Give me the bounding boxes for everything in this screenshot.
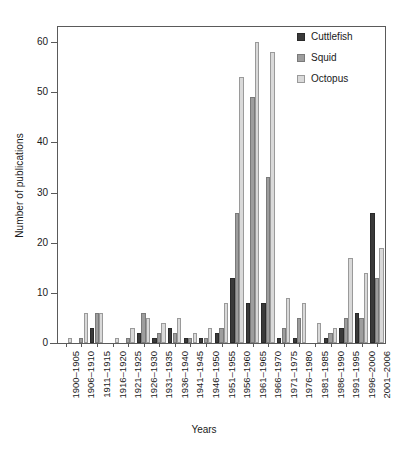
x-axis-tick <box>66 343 67 347</box>
legend-label: Octopus <box>311 73 348 84</box>
x-axis-tick <box>253 343 254 347</box>
y-tick-label: 10 <box>37 286 48 299</box>
x-axis-label: 2001–2006 <box>381 351 392 399</box>
bar-group <box>214 27 230 343</box>
x-axis-tick <box>206 343 207 347</box>
x-axis-tick <box>331 343 332 347</box>
legend-swatch-octopus-icon <box>297 75 305 83</box>
x-axis-tick <box>237 343 238 347</box>
legend-swatch-squid-icon <box>297 54 305 62</box>
y-tick-label: 40 <box>37 135 48 148</box>
x-axis-label: 1976–1980 <box>303 351 314 399</box>
x-axis-label: 1956–1960 <box>241 351 252 399</box>
x-axis-label: 1931–1935 <box>163 351 174 399</box>
x-axis-label: 1966–1970 <box>272 351 283 399</box>
bar-octopus <box>208 328 212 343</box>
x-axis-label: 1971–1975 <box>288 351 299 399</box>
legend: CuttlefishSquidOctopus <box>297 28 353 91</box>
bar-group <box>167 27 183 343</box>
bar-group <box>136 27 152 343</box>
bar-octopus <box>348 258 352 343</box>
legend-label: Squid <box>311 52 337 63</box>
y-tick-label: 60 <box>37 35 48 48</box>
y-tick-label: 0 <box>42 336 48 349</box>
x-axis-label: 1991–1995 <box>350 351 361 399</box>
bar-octopus <box>99 313 103 343</box>
x-axis-tick <box>190 343 191 347</box>
bar-octopus <box>239 77 243 343</box>
bar-octopus <box>177 318 181 343</box>
bar-octopus <box>255 42 259 343</box>
x-axis-label: 1911–1915 <box>101 351 112 398</box>
x-axis-tick <box>113 343 114 347</box>
x-axis-tick <box>268 343 269 347</box>
x-axis-tick <box>144 343 145 347</box>
bar-octopus <box>364 273 368 343</box>
x-axis-label: 1981–1985 <box>319 351 330 399</box>
bar-octopus <box>146 318 150 343</box>
x-axis-label: 1936–1940 <box>179 351 190 399</box>
bar-octopus <box>224 303 228 343</box>
bar-group <box>74 27 90 343</box>
x-axis-label: 1916–1920 <box>117 351 128 399</box>
x-axis-label: 1996–2000 <box>366 351 377 399</box>
x-axis-label: 1906–1910 <box>85 351 96 399</box>
x-axis-tick <box>346 343 347 347</box>
x-axis-label: 1961–1965 <box>257 351 268 399</box>
x-axis-tick <box>81 343 82 347</box>
bar-octopus <box>317 323 321 343</box>
bar-group <box>183 27 199 343</box>
x-axis-label: 1921–1925 <box>132 351 143 399</box>
legend-item-octopus: Octopus <box>297 70 353 87</box>
legend-item-cuttlefish: Cuttlefish <box>297 28 353 45</box>
bar-group <box>58 27 74 343</box>
y-axis-title: Number of publications <box>14 106 25 266</box>
bar-group <box>245 27 261 343</box>
x-axis-tick <box>315 343 316 347</box>
bar-group <box>151 27 167 343</box>
legend-item-squid: Squid <box>297 49 353 66</box>
x-axis-label: 1946–1950 <box>210 351 221 399</box>
publications-bar-chart: Number of publications 0102030405060 190… <box>0 0 408 450</box>
bar-octopus <box>270 52 274 343</box>
bar-octopus <box>193 333 197 343</box>
x-axis-label: 1986–1990 <box>335 351 346 399</box>
x-axis-tick <box>284 343 285 347</box>
x-axis-label: 1900–1905 <box>70 351 81 399</box>
x-axis-tick <box>299 343 300 347</box>
bar-group <box>260 27 276 343</box>
bar-octopus <box>130 328 134 343</box>
x-axis-tick <box>362 343 363 347</box>
bar-octopus <box>84 313 88 343</box>
legend-swatch-cuttlefish-icon <box>297 33 305 41</box>
bar-group <box>89 27 105 343</box>
bar-octopus <box>161 323 165 343</box>
bar-group <box>276 27 292 343</box>
y-tick-label: 20 <box>37 236 48 249</box>
bar-octopus <box>379 248 383 343</box>
x-axis-label: 1951–1955 <box>226 351 237 399</box>
x-axis-tick <box>175 343 176 347</box>
x-axis-tick <box>222 343 223 347</box>
x-axis-tick <box>377 343 378 347</box>
x-axis-label: 1941–1945 <box>194 351 205 399</box>
bar-group <box>229 27 245 343</box>
y-tick-label: 30 <box>37 186 48 199</box>
bar-octopus <box>302 303 306 343</box>
x-axis-label: 1926–1930 <box>148 351 159 399</box>
bar-octopus <box>286 298 290 343</box>
x-axis-title: Years <box>0 424 408 435</box>
bar-group <box>369 27 385 343</box>
bar-group <box>105 27 121 343</box>
bar-octopus <box>333 328 337 343</box>
y-tick-label: 50 <box>37 85 48 98</box>
x-axis-tick <box>159 343 160 347</box>
bar-group <box>120 27 136 343</box>
legend-label: Cuttlefish <box>311 31 353 42</box>
bar-group <box>354 27 370 343</box>
x-axis-tick <box>128 343 129 347</box>
bar-group <box>198 27 214 343</box>
x-axis-tick <box>97 343 98 347</box>
